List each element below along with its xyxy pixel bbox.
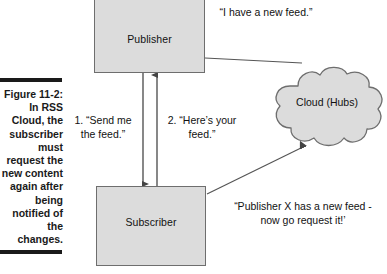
node-publisher-label: Publisher (127, 33, 172, 45)
label-step-1-send-me-the-feed: 1. “Send me the feed.” (66, 114, 140, 141)
figure-caption-label: Figure 11-2: (0, 88, 63, 101)
figure-caption-text: Figure 11-2: In RSS Cloud, the subscribe… (0, 88, 64, 246)
label-cloud-notification: “Publisher X has a new feed - now go req… (228, 200, 378, 227)
caption-rule-bottom (0, 250, 62, 254)
label-step-2-heres-your-feed: 2. “Here’s your feed.” (160, 114, 244, 141)
node-subscriber-label: Subscriber (125, 216, 176, 228)
line-publisher-to-cloud (205, 58, 302, 63)
figure-caption-block: Figure 11-2: In RSS Cloud, the subscribe… (0, 78, 64, 254)
arrow-subscriber-to-cloud (207, 147, 303, 194)
figure-caption-body: In RSS Cloud, the subscriber must reques… (0, 101, 63, 246)
cloud-icon[interactable] (268, 66, 386, 150)
node-publisher[interactable]: Publisher (94, 0, 205, 73)
figure-container: Figure 11-2: In RSS Cloud, the subscribe… (0, 0, 387, 274)
node-cloud-label: Cloud (Hubs) (268, 96, 386, 108)
node-subscriber[interactable]: Subscriber (96, 186, 206, 266)
label-publisher-announce: “I have a new feed.” (218, 6, 314, 20)
caption-rule-top (0, 78, 62, 82)
